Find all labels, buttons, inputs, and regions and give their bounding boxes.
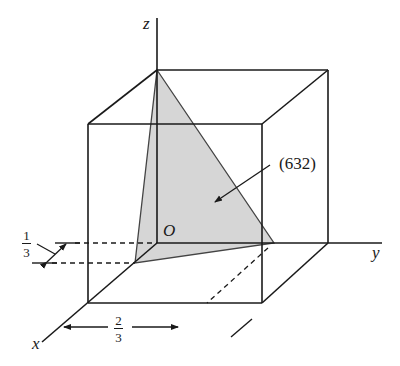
diagram-canvas xyxy=(0,0,400,366)
fraction-numerator: 1 xyxy=(23,229,30,242)
y-intercept-fraction: 2 3 xyxy=(114,314,123,344)
x-intercept-fraction: 1 3 xyxy=(22,229,31,259)
dimension-tick xyxy=(231,319,252,337)
plane-label: (632) xyxy=(279,155,316,172)
y-axis-label: y xyxy=(372,244,380,261)
fraction-bar xyxy=(114,328,123,329)
z-axis-label: z xyxy=(143,15,150,32)
dashed-guide xyxy=(207,248,268,303)
cube-edge xyxy=(262,243,328,303)
fraction-denominator: 3 xyxy=(23,246,30,259)
fraction-bar xyxy=(22,243,31,244)
miller-plane-diagram: z y x O (632) 1 3 2 3 xyxy=(0,0,400,366)
plane-632 xyxy=(135,70,274,263)
cube-edge xyxy=(88,70,157,124)
fraction-denominator: 3 xyxy=(115,331,122,344)
dimension-arrow-x xyxy=(47,244,66,262)
cube-edge xyxy=(262,70,328,124)
leader-line xyxy=(37,244,55,254)
fraction-numerator: 2 xyxy=(115,314,122,327)
x-axis-label: x xyxy=(32,335,40,352)
origin-label: O xyxy=(163,222,175,239)
